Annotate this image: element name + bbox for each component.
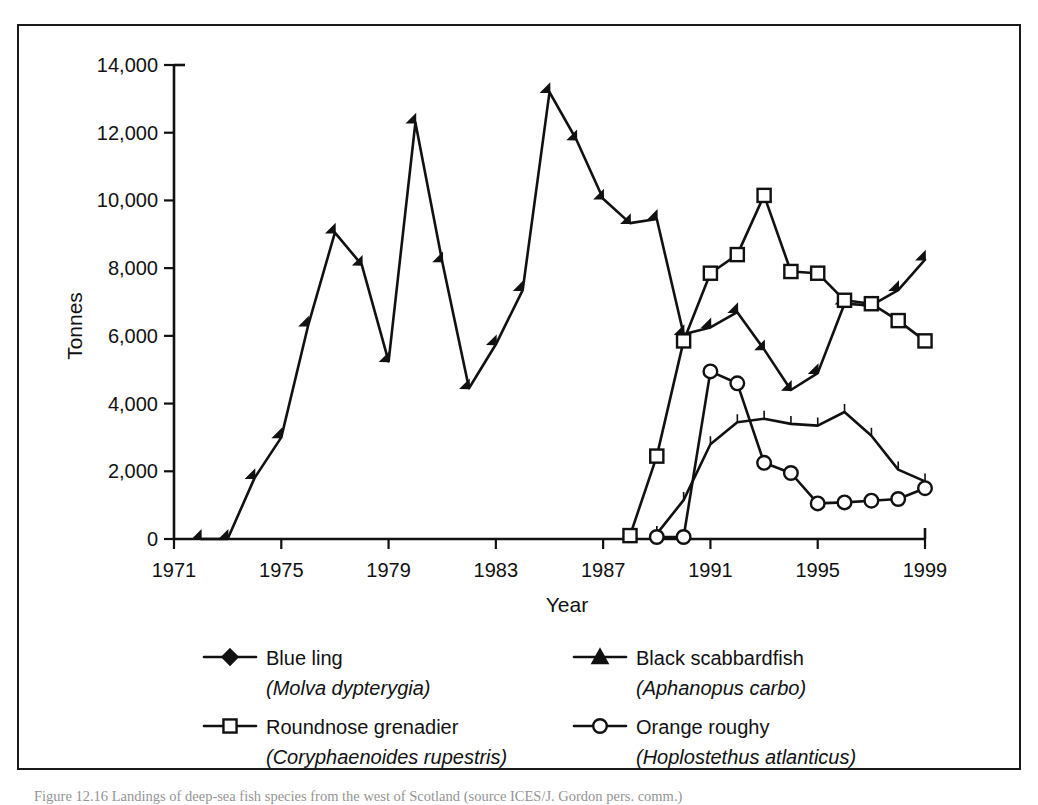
filled-diamond-marker: [434, 253, 442, 261]
legend-common-name: Roundnose grenadier: [266, 716, 459, 738]
open-circle-marker: [784, 466, 798, 480]
figure-caption: Figure 12.16 Landings of deep-sea fish s…: [34, 788, 1024, 805]
x-axis-title: Year: [546, 593, 588, 616]
x-tick-label: 1991: [688, 559, 733, 581]
y-tick-label: 10,000: [97, 189, 158, 211]
x-tick-label: 1971: [152, 559, 197, 581]
y-axis-title: Tonnes: [63, 292, 86, 360]
y-axis-tick-labels: 02,0004,0006,0008,00010,00012,00014,000: [97, 54, 158, 550]
open-square-marker: [811, 267, 824, 280]
filled-diamond-marker: [222, 649, 238, 665]
series-line-1: [630, 195, 925, 535]
open-square-marker: [623, 529, 636, 542]
open-square-marker: [892, 314, 905, 327]
filled-diamond-marker: [273, 429, 281, 437]
filled-diamond-marker: [488, 336, 496, 344]
filled-diamond-marker: [729, 304, 737, 312]
x-tick-label: 1995: [795, 559, 840, 581]
open-square-marker: [704, 267, 717, 280]
filled-diamond-marker: [649, 211, 657, 219]
x-tick-label: 1983: [474, 559, 519, 581]
open-square-marker: [731, 248, 744, 261]
legend-scientific-name: (Coryphaenoides rupestris): [266, 746, 507, 768]
filled-diamond-marker: [461, 380, 469, 388]
y-tick-label: 6,000: [108, 325, 158, 347]
filled-diamond-marker: [300, 318, 308, 326]
open-circle-marker: [891, 492, 905, 506]
legend-entry-orange-roughy: Orange roughy(Hoplostethus atlanticus): [574, 716, 856, 768]
open-circle-marker: [918, 481, 932, 495]
legend-entry-roundnose-grenadier: Roundnose grenadier(Coryphaenoides rupes…: [204, 716, 507, 768]
filled-diamond-marker: [247, 470, 255, 478]
legend-common-name: Blue ling: [266, 647, 343, 669]
open-circle-marker: [704, 365, 718, 379]
x-tick-label: 1975: [259, 559, 304, 581]
series-orange-roughy: [650, 365, 932, 544]
open-circle-marker: [593, 719, 607, 733]
open-square-marker: [758, 189, 771, 202]
y-tick-label: 0: [147, 528, 158, 550]
filled-diamond-marker: [810, 365, 818, 373]
open-circle-marker: [865, 494, 879, 508]
line-chart: 02,0004,0006,0008,00010,00012,00014,000 …: [19, 26, 1023, 772]
open-square-marker: [865, 297, 878, 310]
legend-scientific-name: (Molva dypterygia): [266, 677, 431, 699]
open-square-marker: [784, 265, 797, 278]
y-tick-label: 14,000: [97, 54, 158, 76]
filled-diamond-marker: [515, 282, 523, 290]
legend-entry-black-scabbardfish: Black scabbardfish(Aphanopus carbo): [574, 647, 806, 699]
filled-diamond-marker: [702, 319, 710, 327]
chart-plot-area: 02,0004,0006,0008,00010,00012,00014,000 …: [19, 26, 1023, 772]
filled-diamond-marker: [381, 353, 389, 361]
x-axis-tick-labels: 19711975197919831987199119951999: [152, 559, 948, 581]
axis-lines: [174, 65, 925, 539]
open-square-marker: [650, 450, 663, 463]
open-circle-marker: [811, 497, 825, 511]
x-tick-label: 1999: [903, 559, 948, 581]
open-circle-marker: [650, 530, 664, 544]
y-tick-label: 8,000: [108, 257, 158, 279]
filled-diamond-marker: [193, 531, 201, 539]
open-square-marker: [918, 334, 931, 347]
x-tick-label: 1987: [581, 559, 626, 581]
legend-scientific-name: (Hoplostethus atlanticus): [636, 746, 856, 768]
chart-legend: Blue ling(Molva dypterygia)Black scabbar…: [204, 647, 856, 768]
y-tick-label: 4,000: [108, 393, 158, 415]
open-circle-marker: [677, 530, 691, 544]
y-tick-label: 2,000: [108, 460, 158, 482]
y-tick-label: 12,000: [97, 122, 158, 144]
figure-frame: 02,0004,0006,0008,00010,00012,00014,000 …: [17, 24, 1021, 770]
filled-diamond-marker: [917, 252, 925, 260]
series-roundnose-grenadier: [623, 189, 931, 542]
series-line-0: [201, 92, 925, 539]
filled-diamond-marker: [327, 225, 335, 233]
open-square-marker: [223, 719, 236, 732]
data-series-group: [193, 84, 932, 544]
open-square-marker: [677, 334, 690, 347]
filled-diamond-marker: [676, 326, 684, 334]
filled-diamond-marker: [220, 531, 228, 539]
series-blue-ling: [193, 84, 925, 539]
legend-scientific-name: (Aphanopus carbo): [636, 677, 806, 699]
legend-common-name: Orange roughy: [636, 716, 769, 738]
open-circle-marker: [757, 456, 771, 470]
filled-diamond-marker: [407, 115, 415, 123]
filled-diamond-marker: [542, 84, 550, 92]
open-circle-marker: [731, 377, 745, 391]
open-circle-marker: [838, 496, 852, 510]
legend-common-name: Black scabbardfish: [636, 647, 804, 669]
x-tick-label: 1979: [366, 559, 411, 581]
filled-diamond-marker: [890, 282, 898, 290]
open-square-marker: [838, 294, 851, 307]
legend-entry-blue-ling: Blue ling(Molva dypterygia): [204, 647, 431, 699]
